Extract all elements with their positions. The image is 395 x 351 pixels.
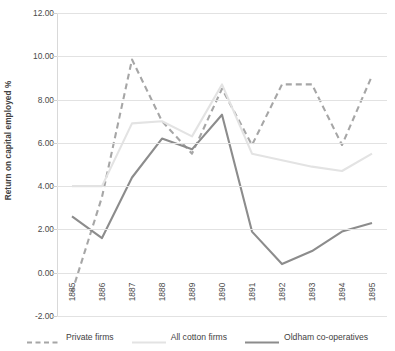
legend-item[interactable]: Private firms — [27, 332, 114, 342]
y-axis-tick-mark — [53, 100, 57, 101]
legend-label: Private firms — [66, 332, 114, 342]
series-line — [72, 60, 372, 293]
y-axis-tick-mark — [53, 273, 57, 274]
series-line — [72, 115, 372, 264]
x-axis-tick-label: 1888 — [147, 276, 177, 316]
x-axis-tick-label: 1887 — [117, 276, 147, 316]
y-axis-tick-mark — [53, 56, 57, 57]
y-axis-tick-label: 2.00 — [14, 224, 54, 234]
grid-line — [57, 100, 387, 101]
x-axis-tick-label: 1890 — [207, 276, 237, 316]
legend-item[interactable]: All cotton firms — [132, 332, 227, 342]
x-axis-tick-label: 1892 — [267, 276, 297, 316]
x-axis-tick-label: 1886 — [87, 276, 117, 316]
plot-area — [57, 13, 387, 316]
legend-swatch-icon — [245, 333, 279, 342]
y-axis-tick-label: 0.00 — [14, 268, 54, 278]
grid-line — [57, 56, 387, 57]
y-axis-tick-labels: 12.0010.008.006.004.002.000.00-2.00 — [12, 0, 54, 351]
y-axis-tick-label: 10.00 — [14, 51, 54, 61]
x-axis-tick-labels: 1885188618871888188918901891189218931894… — [57, 276, 387, 318]
x-axis-tick-label: 1889 — [177, 276, 207, 316]
y-axis-tick-label: 6.00 — [14, 138, 54, 148]
x-axis-tick-label: 1891 — [237, 276, 267, 316]
grid-line — [57, 186, 387, 187]
x-axis-tick-label: 1893 — [297, 276, 327, 316]
grid-line — [57, 13, 387, 14]
legend-swatch-icon — [27, 333, 61, 342]
x-axis-tick-label: 1885 — [57, 276, 87, 316]
legend-label: All cotton firms — [171, 332, 227, 342]
x-axis-tick-label: 1894 — [327, 276, 357, 316]
y-axis-tick-mark — [53, 229, 57, 230]
legend-label: Oldham co-operatives — [284, 332, 368, 342]
y-axis-tick-mark — [53, 186, 57, 187]
legend-item[interactable]: Oldham co-operatives — [245, 332, 368, 342]
series-lines — [57, 13, 387, 316]
x-axis-tick-label: 1895 — [357, 276, 387, 316]
grid-line — [57, 229, 387, 230]
y-axis-tick-label: 4.00 — [14, 181, 54, 191]
grid-line — [57, 143, 387, 144]
y-axis-tick-mark — [53, 143, 57, 144]
y-axis-tick-label: 12.00 — [14, 8, 54, 18]
chart-legend: Private firmsAll cotton firmsOldham co-o… — [0, 326, 395, 348]
y-axis-tick-label: -2.00 — [14, 311, 54, 321]
grid-line — [57, 273, 387, 274]
legend-swatch-icon — [132, 333, 166, 342]
chart-container: Return on capital employed % 12.0010.008… — [0, 0, 395, 351]
y-axis-tick-mark — [53, 13, 57, 14]
y-axis-tick-label: 8.00 — [14, 95, 54, 105]
